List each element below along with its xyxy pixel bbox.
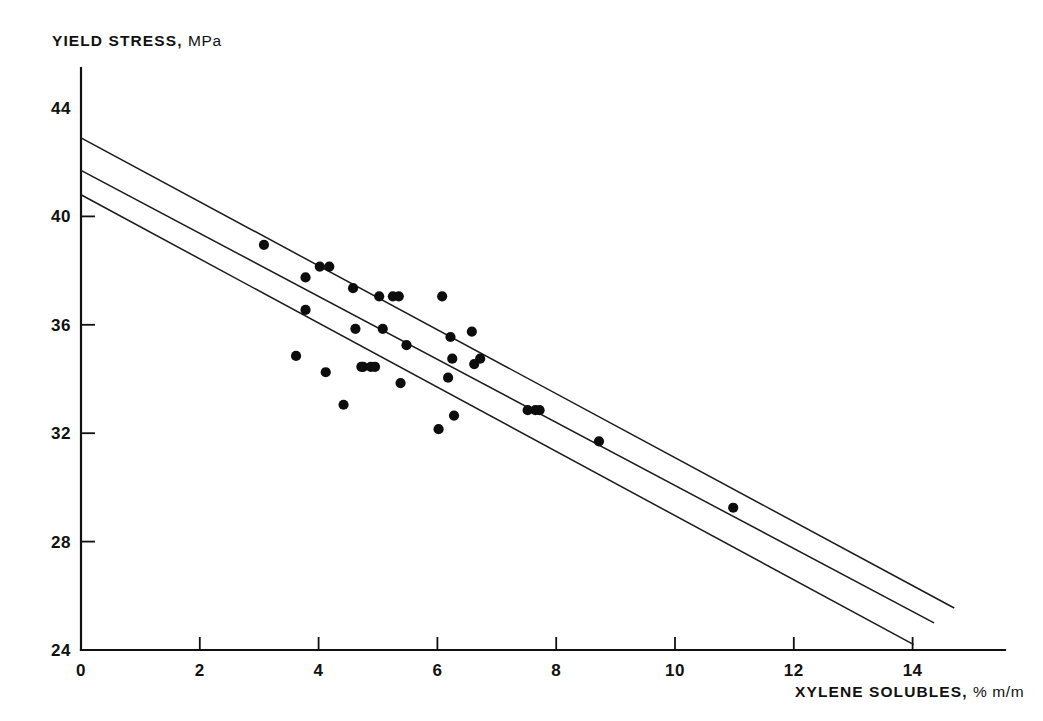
data-point — [324, 261, 334, 271]
y-tick-label: 40 — [51, 207, 71, 226]
data-point-group — [259, 240, 738, 513]
data-point — [728, 503, 738, 513]
scatter-plot-svg: YIELD STRESS, MPa 242832364044 024681012… — [0, 0, 1043, 721]
data-point — [300, 305, 310, 315]
y-tick-label: 28 — [51, 533, 71, 552]
data-point — [437, 291, 447, 301]
y-axis-title-main: YIELD STRESS, — [52, 32, 188, 49]
x-tick-label: 10 — [665, 661, 685, 680]
data-point — [300, 272, 310, 282]
data-point — [467, 326, 477, 336]
data-point — [534, 405, 544, 415]
data-point — [348, 283, 358, 293]
data-point — [350, 324, 360, 334]
x-axis-ticks: 02468101214 — [76, 637, 923, 680]
x-tick-label: 8 — [551, 661, 561, 680]
data-point — [433, 424, 443, 434]
regression-lines — [81, 138, 954, 645]
data-point — [394, 291, 404, 301]
data-point — [445, 332, 455, 342]
data-point — [321, 367, 331, 377]
y-tick-label: 24 — [51, 641, 71, 660]
x-tick-label: 6 — [432, 661, 442, 680]
y-axis-title-unit: MPa — [188, 32, 222, 49]
data-point — [395, 378, 405, 388]
data-point — [370, 362, 380, 372]
data-point — [594, 436, 604, 446]
x-tick-label: 0 — [76, 661, 86, 680]
data-point — [449, 410, 459, 420]
data-point — [447, 354, 457, 364]
x-axis-title: XYLENE SOLUBLES, % m/m — [795, 683, 1024, 700]
data-point — [338, 400, 348, 410]
data-point — [401, 340, 411, 350]
data-point — [443, 373, 453, 383]
x-tick-label: 12 — [784, 661, 804, 680]
y-axis-ticks: 242832364044 — [51, 99, 95, 660]
x-tick-label: 4 — [314, 661, 324, 680]
y-axis-title: YIELD STRESS, MPa — [52, 32, 222, 49]
data-point — [315, 261, 325, 271]
data-point — [374, 291, 384, 301]
x-axis-title-main: XYLENE SOLUBLES, — [795, 683, 973, 700]
data-point — [259, 240, 269, 250]
data-point — [378, 324, 388, 334]
chart-container: YIELD STRESS, MPa 242832364044 024681012… — [0, 0, 1043, 721]
regression-line — [81, 170, 934, 623]
data-point — [291, 351, 301, 361]
data-point — [475, 354, 485, 364]
y-tick-label: 44 — [51, 99, 71, 118]
x-axis-title-unit: % m/m — [973, 683, 1024, 700]
y-tick-label: 32 — [51, 424, 71, 443]
x-tick-label: 14 — [903, 661, 923, 680]
x-tick-label: 2 — [195, 661, 205, 680]
upper-confidence-line — [81, 138, 954, 608]
lower-confidence-line — [81, 195, 914, 645]
y-tick-label: 36 — [51, 316, 71, 335]
